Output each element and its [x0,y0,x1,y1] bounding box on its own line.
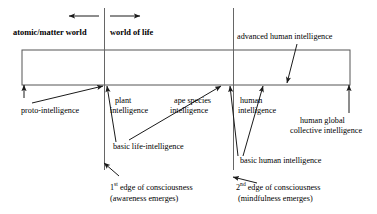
spectrum-box [22,50,350,85]
proto-intelligence-label: proto-intelligence [21,106,79,116]
basic-human-intelligence-label: basic human intelligence [240,156,321,166]
first-edge-callout-arrow [104,163,119,176]
first-edge-line1: 1st edge of consciousness [110,183,193,193]
basic-life-intelligence-label: basic life-intelligence [113,142,184,152]
advanced-human-intelligence-label: advanced human intelligence [237,32,332,42]
second-edge-line1: 2nd edge of consciousness [236,183,321,193]
atomic-matter-world-label: atomic/matter world [13,28,87,38]
proto-intelligence-diagonal-arrow [32,86,103,103]
second-edge-text: edge of consciousness [246,183,321,192]
first-edge-text: edge of consciousness [118,183,193,192]
world-of-life-label: world of life [110,28,153,38]
second-edge-sub: (mindfulness emerges) [238,194,313,204]
first-edge-sub: (awareness emerges) [110,194,178,204]
intelligence-spectrum-diagram: atomic/matter world world of life proto-… [0,0,377,214]
edge-callout-arrows [104,163,257,183]
